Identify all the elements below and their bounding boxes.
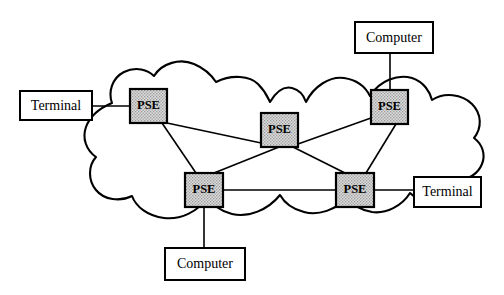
endpoint-terminal-right[interactable]: Terminal	[414, 177, 481, 207]
node-pse-bottom-left[interactable]: PSE	[185, 173, 223, 207]
endpoint-computer-top[interactable]: Computer	[355, 22, 433, 53]
pse-right-top-label: PSE	[378, 99, 401, 113]
pse-left-label: PSE	[137, 98, 160, 112]
link-layer	[92, 53, 414, 248]
computer-top-label: Computer	[366, 30, 422, 45]
link-pse-center-to-pse-bottom-left	[214, 147, 279, 173]
terminal-left-label: Terminal	[31, 98, 81, 113]
link-pse-center-to-pse-bottom-right	[293, 147, 345, 173]
computer-bottom-label: Computer	[177, 256, 233, 271]
node-pse-left[interactable]: PSE	[130, 89, 167, 123]
endpoint-terminal-left[interactable]: Terminal	[20, 91, 92, 120]
network-diagram: Terminal Computer Terminal Computer PSE …	[0, 0, 504, 295]
diagram-canvas: Terminal Computer Terminal Computer PSE …	[0, 0, 504, 295]
link-pse-right-top-to-pse-bot-right	[366, 124, 396, 173]
terminal-right-label: Terminal	[422, 184, 472, 199]
pse-bottom-left-label: PSE	[193, 182, 216, 196]
link-pse-center-to-pse-right-top	[298, 118, 371, 144]
pse-bottom-right-label: PSE	[344, 182, 367, 196]
pse-center-label: PSE	[268, 122, 291, 136]
node-pse-right-top[interactable]: PSE	[371, 90, 408, 124]
link-pse-left-to-pse-bottom-left	[162, 123, 196, 173]
endpoint-computer-bottom[interactable]: Computer	[165, 248, 245, 280]
node-pse-center[interactable]: PSE	[261, 113, 298, 147]
node-pse-bottom-right[interactable]: PSE	[336, 173, 374, 207]
